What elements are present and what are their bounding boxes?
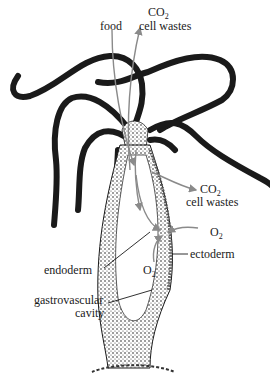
ectoderm-label: ectoderm: [190, 248, 235, 261]
cell-wastes-label-top: cell wastes: [139, 20, 191, 33]
o2-outer-label: O2: [210, 226, 223, 243]
endoderm-label: endoderm: [44, 264, 92, 277]
o2-inner-label: O2: [143, 264, 156, 281]
food-label: food: [100, 20, 122, 33]
cavity-label: cavity: [75, 307, 104, 320]
cell-wastes-label-side: cell wastes: [186, 196, 238, 209]
